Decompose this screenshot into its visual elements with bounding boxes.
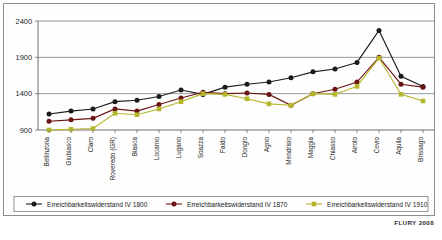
data-point <box>157 107 162 112</box>
data-point <box>113 106 118 111</box>
data-point <box>399 74 404 79</box>
data-point <box>311 91 316 96</box>
x-tick-label: Brissago <box>417 137 425 162</box>
data-point <box>355 84 360 89</box>
x-tick-label: Dongio <box>241 137 249 158</box>
data-point <box>135 112 140 117</box>
y-tick-label: 2400 <box>16 17 32 26</box>
x-axis-category-labels: BellinzonaGiubiascoClaroRoveredo (GR)Bia… <box>43 130 425 180</box>
data-point <box>157 102 162 107</box>
x-tick-label: Agno <box>263 137 271 152</box>
series-line <box>49 57 423 121</box>
data-point <box>157 94 162 99</box>
data-point <box>355 60 360 65</box>
data-point <box>377 56 382 61</box>
line-chart: 900140019002400 BellinzonaGiubiascoClaro… <box>0 0 442 240</box>
data-point <box>223 92 228 97</box>
data-point <box>333 92 338 97</box>
legend-label: Erreichbarkeitswiderstand IV 1800 <box>47 201 148 208</box>
data-point <box>289 75 294 80</box>
y-tick-label: 900 <box>20 126 32 135</box>
x-tick-label: Lugano <box>175 137 183 159</box>
x-tick-label: Locarno <box>153 137 160 161</box>
data-point <box>47 119 52 124</box>
x-tick-label: Roveredo (GR) <box>109 137 117 180</box>
legend-swatch-marker <box>32 202 37 207</box>
data-point <box>179 99 184 104</box>
data-point <box>113 111 118 116</box>
x-tick-label: Faido <box>219 137 226 153</box>
x-tick-label: Cevio <box>373 137 380 154</box>
legend-label: Erreichbarkeitswiderstand IV 1910 <box>327 201 428 208</box>
x-tick-label: Bellinzona <box>43 137 50 167</box>
data-point <box>223 85 228 90</box>
data-point <box>333 66 338 71</box>
chart-container: 900140019002400 BellinzonaGiubiascoClaro… <box>0 0 442 240</box>
data-point <box>421 85 426 90</box>
x-tick-label: Giubiasco <box>65 137 72 166</box>
data-point <box>91 106 96 111</box>
source-credit: FLURY 2008 <box>394 219 434 226</box>
data-point <box>267 92 272 97</box>
y-tick-label: 1900 <box>16 53 32 62</box>
data-point <box>245 82 250 87</box>
legend-item-0[interactable]: Erreichbarkeitswiderstand IV 1800 <box>26 201 148 208</box>
data-point <box>399 92 404 97</box>
series-1 <box>47 55 426 124</box>
series-line <box>49 30 423 114</box>
data-point <box>399 82 404 87</box>
data-point <box>245 96 250 101</box>
data-point <box>47 112 52 117</box>
x-tick-label: Aquila <box>395 137 403 155</box>
data-point <box>91 116 96 121</box>
x-tick-label: Soazza <box>197 137 204 159</box>
x-tick-label: Chiasso <box>329 137 336 161</box>
data-point <box>267 80 272 85</box>
data-point <box>201 91 206 96</box>
data-point <box>113 99 118 104</box>
chart-legend: Erreichbarkeitswiderstand IV 1800Erreich… <box>14 197 428 212</box>
data-point <box>179 88 184 93</box>
x-tick-label: Maggia <box>307 137 315 158</box>
data-point <box>289 103 294 108</box>
x-tick-label: Biasca <box>131 137 138 157</box>
x-tick-label: Claro <box>87 137 94 153</box>
y-axis-tick-labels: 900140019002400 <box>16 17 38 135</box>
data-point <box>333 87 338 92</box>
data-series-group <box>47 28 426 132</box>
legend-item-1[interactable]: Erreichbarkeitswiderstand IV 1870 <box>166 201 288 208</box>
legend-label: Erreichbarkeitswiderstand IV 1870 <box>187 201 288 208</box>
x-tick-label: Mendrisio <box>285 137 292 165</box>
legend-swatch-marker <box>312 202 317 207</box>
y-tick-label: 1400 <box>16 89 32 98</box>
legend-item-2[interactable]: Erreichbarkeitswiderstand IV 1910 <box>306 201 428 208</box>
data-point <box>69 109 74 114</box>
data-point <box>311 69 316 74</box>
data-point <box>69 117 74 122</box>
data-point <box>267 102 272 107</box>
x-tick-label: Airolo <box>351 137 358 154</box>
data-point <box>245 90 250 95</box>
data-point <box>421 99 426 104</box>
legend-swatch-marker <box>172 202 177 207</box>
data-point <box>377 28 382 33</box>
gridlines-group <box>38 21 434 94</box>
data-point <box>135 98 140 103</box>
